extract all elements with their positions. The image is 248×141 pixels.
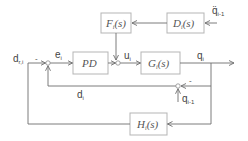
label-e: ei: [55, 49, 62, 61]
block-F: Fi(s): [101, 13, 131, 33]
block-D: Di(s): [167, 13, 204, 33]
svg-text:PD: PD: [81, 57, 97, 69]
sign-sum3-minus: -: [189, 76, 192, 85]
svg-text:Gi(s): Gi(s): [148, 57, 170, 70]
block-diagram: Fi(s) Di(s) PD Gi(s) Hi(s) q̈i-1 dr,i - …: [0, 0, 248, 141]
label-u: ui: [124, 50, 131, 62]
sign-sum1-minus: -: [35, 54, 38, 63]
arrow-branch-to-sum3: [181, 63, 211, 86]
sum-junction-2: [116, 61, 120, 65]
svg-text:Di(s): Di(s): [172, 17, 195, 30]
svg-text:Fi(s): Fi(s): [105, 17, 126, 30]
label-q: qi: [197, 50, 204, 62]
sum-junction-1: [46, 61, 50, 65]
block-PD: PD: [73, 52, 108, 74]
label-d-ref: dr,i: [13, 53, 23, 65]
block-G: Gi(s): [141, 52, 180, 74]
label-q-prev: qi-1: [182, 93, 195, 105]
label-d: di: [77, 89, 84, 101]
sum-junction-3: [176, 84, 180, 88]
arrow-branch-to-H: [168, 86, 212, 124]
block-H: Hi(s): [130, 113, 167, 135]
svg-text:Hi(s): Hi(s): [136, 118, 159, 131]
label-qdd-prev: q̈i-1: [212, 5, 225, 17]
